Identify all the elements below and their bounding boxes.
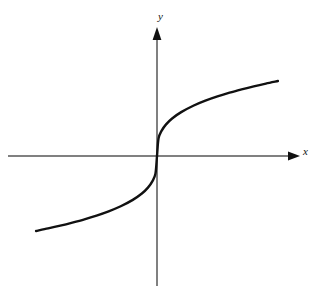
plot-canvas: [0, 0, 322, 293]
x-axis-arrowhead: [288, 152, 300, 161]
y-axis-arrowhead: [153, 27, 162, 40]
y-axis-label: y: [158, 11, 163, 22]
graph-figure: y x: [0, 0, 322, 293]
x-axis-label: x: [303, 146, 308, 157]
